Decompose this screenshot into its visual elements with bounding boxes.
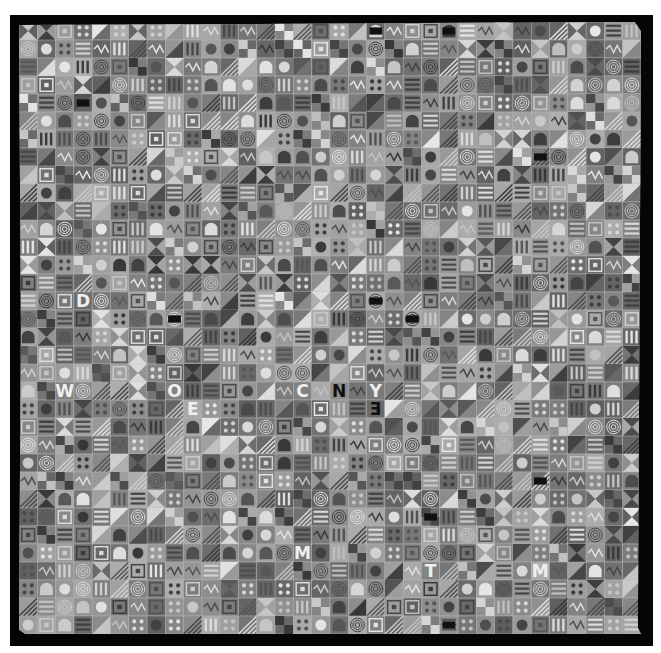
quilt-tile-arch [220, 76, 238, 94]
quilt-tile-circle [367, 562, 385, 580]
quilt-tile-stripes [550, 58, 568, 76]
quilt-tile-triangle [129, 364, 147, 382]
quilt-tile-dots [476, 364, 494, 382]
quilt-tile-stripes [184, 436, 202, 454]
quilt-tile-zigzag [129, 598, 147, 616]
quilt-tile-arch [275, 310, 293, 328]
quilt-tile-stripes [293, 22, 311, 40]
quilt-tile: M [531, 561, 549, 581]
quilt-tile-stripes [476, 328, 494, 346]
quilt-tile-checker [293, 238, 311, 256]
quilt-tile-dots [604, 616, 622, 634]
quilt-tile-stripes [367, 130, 385, 148]
quilt-tile-checker [421, 508, 439, 526]
quilt-tile-arch [367, 418, 385, 436]
quilt-tile-circle [568, 40, 586, 58]
quilt-tile-checker [293, 40, 311, 58]
quilt-tile-stripes [129, 148, 147, 166]
quilt-tile-stripes [92, 382, 110, 400]
quilt-tile-stripes [513, 580, 531, 598]
quilt-tile-triangle [220, 202, 238, 220]
quilt-tile-spiral [293, 364, 311, 382]
quilt-tile-stripes [458, 346, 476, 364]
quilt-tile-checker [37, 472, 55, 490]
quilt-tile-stripes [623, 130, 641, 148]
quilt-tile-stripes [385, 616, 403, 634]
quilt-tile-concentric-square [568, 454, 586, 472]
quilt-tile-stripes [293, 508, 311, 526]
quilt-tile-dots [550, 436, 568, 454]
quilt-tile-stripes [165, 76, 183, 94]
quilt-tile-spiral [56, 220, 74, 238]
quilt-tile-arch [531, 346, 549, 364]
quilt-tile-concentric-square [586, 256, 604, 274]
quilt-tile-stripes [147, 526, 165, 544]
quilt-tile: O [165, 381, 183, 401]
quilt-tile-stripes [458, 328, 476, 346]
quilt-tile-concentric-square [257, 238, 275, 256]
quilt-tile-stripes [513, 436, 531, 454]
quilt-tile-arch [110, 256, 128, 274]
quilt-tile-stripes [19, 112, 37, 130]
quilt-tile-checker [74, 256, 92, 274]
quilt-tile-stripes [92, 418, 110, 436]
quilt-tile-dots [220, 418, 238, 436]
quilt-tile-circle [513, 454, 531, 472]
quilt-tile-arch [440, 382, 458, 400]
quilt-tile-arch [458, 418, 476, 436]
quilt-tile-circle [220, 40, 238, 58]
quilt-tile-checker [275, 184, 293, 202]
quilt-tile-stripes [220, 346, 238, 364]
quilt-tile-circle [202, 40, 220, 58]
quilt-tile-circle [257, 328, 275, 346]
quilt-tile-checker [19, 130, 37, 148]
quilt-tile-checker [568, 166, 586, 184]
quilt-tile-stripes [550, 166, 568, 184]
quilt-tile-stripes [476, 400, 494, 418]
quilt-tile-arch [495, 166, 513, 184]
quilt-tile-dots [129, 436, 147, 454]
quilt-tile-triangle [147, 148, 165, 166]
quilt-tile-stripes [440, 184, 458, 202]
quilt-tile-concentric-square [110, 58, 128, 76]
quilt-tile-concentric-square [202, 238, 220, 256]
quilt-tile-stripes [275, 562, 293, 580]
quilt-tile-stripes [604, 328, 622, 346]
quilt-tile-arch [202, 220, 220, 238]
quilt-tile-stripes [293, 202, 311, 220]
quilt-tile-spiral [74, 382, 92, 400]
quilt-tile-checker [421, 328, 439, 346]
quilt-tile-triangle [19, 166, 37, 184]
quilt-tile-triangle [129, 346, 147, 364]
quilt-tile-checker [129, 202, 147, 220]
quilt-tile-spiral [220, 130, 238, 148]
quilt-tile-stripes [202, 94, 220, 112]
quilt-tile-arch [56, 112, 74, 130]
quilt-tile-stripes [275, 346, 293, 364]
quilt-tile-spiral [623, 94, 641, 112]
quilt-tile-spiral [19, 310, 37, 328]
quilt-tile-arch [440, 22, 458, 40]
quilt-tile-triangle [257, 598, 275, 616]
quilt-tile-spiral [275, 112, 293, 130]
quilt-tile-arch [257, 202, 275, 220]
quilt-tile-dots [220, 400, 238, 418]
quilt-tile-triangle [220, 526, 238, 544]
quilt-tile-stripes [421, 112, 439, 130]
quilt-tile-triangle [257, 310, 275, 328]
quilt-tile-concentric-square [184, 220, 202, 238]
quilt-tile-concentric-square [586, 220, 604, 238]
quilt-tile-zigzag [513, 22, 531, 40]
quilt-tile-dots [293, 616, 311, 634]
quilt-tile-arch [385, 274, 403, 292]
quilt-tile-triangle [440, 400, 458, 418]
quilt-tile-stripes [440, 616, 458, 634]
quilt-tile-arch [257, 58, 275, 76]
quilt-tile-stripes [74, 346, 92, 364]
quilt-tile-arch [568, 94, 586, 112]
quilt-tile-concentric-square [623, 310, 641, 328]
quilt-tile-concentric-square [312, 22, 330, 40]
quilt-tile-spiral [56, 94, 74, 112]
quilt-tile-arch [312, 166, 330, 184]
quilt-tile-triangle [550, 364, 568, 382]
